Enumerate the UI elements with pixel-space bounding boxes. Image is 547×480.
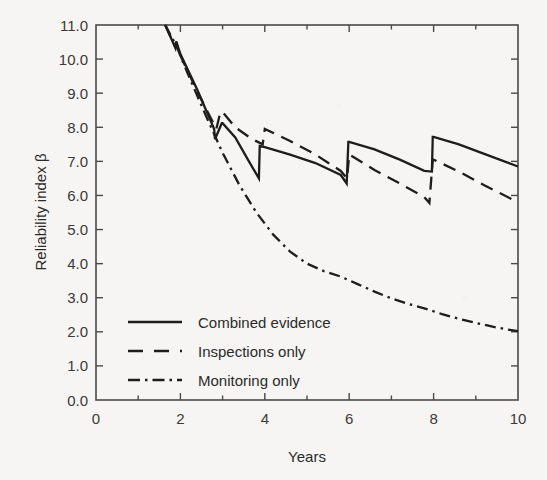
- y-tick-label: 2.0: [67, 323, 88, 340]
- series-line-combined-evidence: [165, 25, 518, 184]
- chart-legend: Combined evidenceInspections onlyMonitor…: [128, 314, 331, 389]
- x-tick-label: 2: [176, 410, 184, 427]
- x-tick-label: 0: [92, 410, 100, 427]
- x-tick-label: 8: [429, 410, 437, 427]
- y-tick-label: 1.0: [67, 357, 88, 374]
- axis-tick-marks: [96, 25, 518, 400]
- x-tick-label: 6: [345, 410, 353, 427]
- plot-frame: [96, 25, 518, 400]
- y-axis-tick-labels: 0.01.02.03.04.05.06.07.08.09.010.011.0: [59, 17, 88, 409]
- legend-label: Combined evidence: [198, 314, 331, 331]
- chart-canvas: 0.01.02.03.04.05.06.07.08.09.010.011.0 0…: [0, 0, 547, 480]
- reliability-index-chart: 0.01.02.03.04.05.06.07.08.09.010.011.0 0…: [0, 0, 547, 480]
- y-tick-label: 7.0: [67, 153, 88, 170]
- x-axis-tick-labels: 0246810: [92, 410, 527, 427]
- x-tick-label: 4: [261, 410, 269, 427]
- y-tick-label: 3.0: [67, 289, 88, 306]
- y-tick-label: 9.0: [67, 85, 88, 102]
- x-tick-label: 10: [510, 410, 527, 427]
- legend-label: Inspections only: [198, 343, 306, 360]
- data-series-group: [165, 25, 518, 331]
- y-tick-label: 0.0: [67, 392, 88, 409]
- y-tick-label: 5.0: [67, 221, 88, 238]
- y-tick-label: 10.0: [59, 51, 88, 68]
- y-tick-label: 8.0: [67, 119, 88, 136]
- y-axis-title: Reliability index β: [32, 153, 49, 270]
- legend-label: Monitoring only: [198, 372, 300, 389]
- x-axis-title: Years: [288, 448, 326, 465]
- y-tick-label: 6.0: [67, 187, 88, 204]
- y-tick-label: 11.0: [60, 17, 88, 34]
- y-tick-label: 4.0: [67, 255, 88, 272]
